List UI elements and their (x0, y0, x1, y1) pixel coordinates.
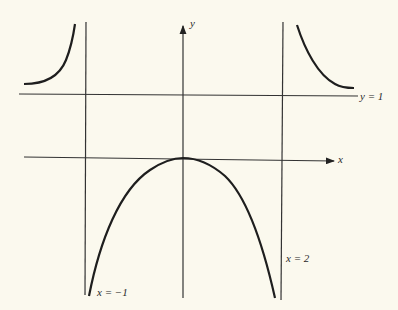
horizontal-asymptote-line (19, 94, 358, 96)
left-branch-curve (24, 24, 75, 84)
horizontal-asymptote-label: y = 1 (360, 91, 383, 102)
right-vertical-asymptote-line (281, 22, 283, 300)
right-branch-curve (297, 25, 354, 88)
right-asymptote-label: x = 2 (286, 253, 309, 264)
y-axis-label: y (190, 18, 195, 29)
left-vertical-asymptote-line (85, 22, 86, 295)
x-axis-label: x (338, 154, 343, 165)
middle-branch-curve (89, 158, 275, 298)
left-asymptote-label: x = −1 (97, 287, 128, 298)
graph-canvas: y x y = 1 x = −1 x = 2 (0, 0, 398, 310)
